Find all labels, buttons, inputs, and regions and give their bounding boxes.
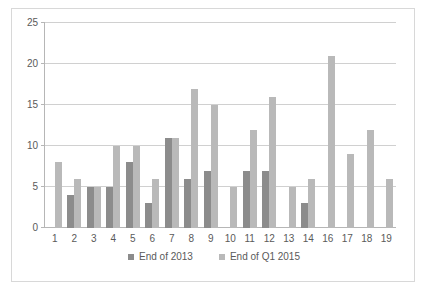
y-axis-label: 0 (32, 223, 38, 233)
bar[interactable] (55, 162, 62, 228)
legend-item[interactable]: End of 2013 (128, 252, 193, 262)
bar[interactable] (126, 162, 133, 228)
bar-group: 14 (299, 23, 319, 228)
x-axis-label: 14 (303, 234, 314, 244)
x-axis-label: 18 (361, 234, 372, 244)
y-axis-label: 5 (32, 182, 38, 192)
bar[interactable] (243, 171, 250, 228)
bar[interactable] (87, 187, 94, 228)
x-axis-label: 5 (130, 234, 136, 244)
bar[interactable] (94, 187, 101, 228)
legend-label: End of 2013 (139, 252, 193, 262)
chart-plot-wrapper: 0510152025 123456789101112131416171819 E… (12, 9, 416, 283)
bar[interactable] (145, 203, 152, 228)
bar[interactable] (269, 97, 276, 228)
x-axis-label: 8 (188, 234, 194, 244)
bar[interactable] (262, 171, 269, 228)
bar[interactable] (250, 130, 257, 228)
x-axis-label: 13 (283, 234, 294, 244)
x-axis-label: 10 (225, 234, 236, 244)
bar[interactable] (211, 105, 218, 228)
x-axis-label: 3 (91, 234, 97, 244)
x-axis-label: 17 (342, 234, 353, 244)
bar[interactable] (152, 179, 159, 228)
y-axis-label: 25 (27, 18, 38, 28)
bar[interactable] (230, 187, 237, 228)
bar[interactable] (328, 56, 335, 228)
bar[interactable] (347, 154, 354, 228)
bar[interactable] (172, 138, 179, 228)
bar-group: 2 (65, 23, 85, 228)
bar[interactable] (308, 179, 315, 228)
x-axis-label: 2 (71, 234, 77, 244)
bar-group: 7 (162, 23, 182, 228)
x-axis-label: 19 (381, 234, 392, 244)
bar-group: 17 (338, 23, 358, 228)
bar-group: 18 (357, 23, 377, 228)
bar[interactable] (289, 187, 296, 228)
legend-swatch-icon (219, 254, 225, 260)
bar-group: 4 (104, 23, 124, 228)
bar[interactable] (386, 179, 393, 228)
bar-group: 6 (143, 23, 163, 228)
bar-group: 10 (221, 23, 241, 228)
plot-area: 0510152025 123456789101112131416171819 (44, 23, 396, 228)
bar-group: 19 (377, 23, 397, 228)
bar-group: 5 (123, 23, 143, 228)
legend-item[interactable]: End of Q1 2015 (219, 252, 300, 262)
x-axis-label: 9 (208, 234, 214, 244)
y-axis-label: 10 (27, 141, 38, 151)
bar[interactable] (133, 146, 140, 228)
bar-group: 8 (182, 23, 202, 228)
bar[interactable] (74, 179, 81, 228)
bar[interactable] (367, 130, 374, 228)
bar[interactable] (106, 187, 113, 228)
x-axis-label: 16 (322, 234, 333, 244)
x-axis-label: 7 (169, 234, 175, 244)
y-axis-label: 15 (27, 100, 38, 110)
bar[interactable] (113, 146, 120, 228)
bar[interactable] (165, 138, 172, 228)
x-axis-label: 11 (245, 234, 255, 244)
bar-group: 16 (318, 23, 338, 228)
bar-group: 9 (201, 23, 221, 228)
chart-legend: End of 2013End of Q1 2015 (12, 252, 416, 262)
legend-swatch-icon (128, 254, 134, 260)
bar-group: 3 (84, 23, 104, 228)
x-axis-label: 4 (110, 234, 116, 244)
bar-group: 12 (260, 23, 280, 228)
x-axis-label: 1 (52, 234, 58, 244)
bar[interactable] (204, 171, 211, 228)
bar[interactable] (67, 195, 74, 228)
x-axis-label: 6 (149, 234, 155, 244)
bar[interactable] (301, 203, 308, 228)
chart-frame: 0510152025 123456789101112131416171819 E… (11, 8, 415, 282)
bar-group: 13 (279, 23, 299, 228)
bar[interactable] (191, 89, 198, 228)
legend-label: End of Q1 2015 (230, 252, 300, 262)
y-axis-label: 20 (27, 59, 38, 69)
bar-group: 1 (45, 23, 65, 228)
bar-group: 11 (240, 23, 260, 228)
bar-series-layer: 123456789101112131416171819 (45, 23, 396, 228)
x-axis-label: 12 (264, 234, 275, 244)
bar[interactable] (184, 179, 191, 228)
